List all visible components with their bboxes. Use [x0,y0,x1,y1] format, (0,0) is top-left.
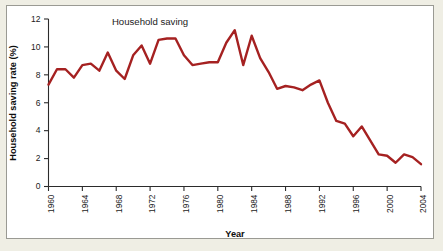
chart-frame [6,5,434,239]
chart-figure: 024681012 196019641968197219761980198419… [0,0,443,251]
